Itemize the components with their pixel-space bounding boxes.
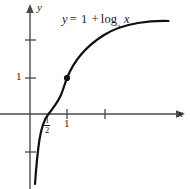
equation-annotation: y=1+log2x <box>62 13 130 29</box>
marked-point-1-1 <box>64 75 70 81</box>
equation-constant: 1 <box>81 12 87 26</box>
math-figure-graph: y=1+log2x x y 1 1 1 2 <box>0 0 190 189</box>
y-axis-arrowhead <box>26 4 34 13</box>
equation-plus: + <box>91 12 98 26</box>
equation-function: log <box>101 12 118 26</box>
log-curve <box>35 21 169 184</box>
y-axis-label: y <box>37 2 42 13</box>
equation-variable: x <box>124 12 130 26</box>
x-tick-label-one-half: 1 2 <box>44 116 50 135</box>
fraction-denominator: 2 <box>44 126 50 135</box>
x-axis-label: x <box>178 108 183 119</box>
x-tick-label-1: 1 <box>64 118 70 129</box>
equation-equals: = <box>70 12 77 26</box>
y-tick-label-1: 1 <box>16 71 22 82</box>
equation-base: 2 <box>117 23 121 31</box>
equation-lhs: y <box>62 12 68 26</box>
